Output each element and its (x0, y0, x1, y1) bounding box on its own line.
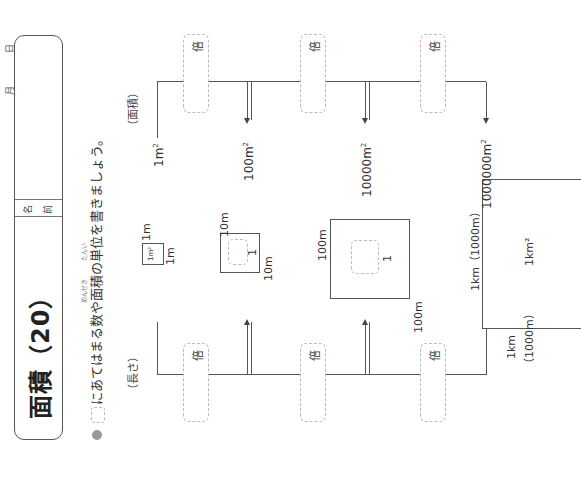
blank-box-icon (91, 407, 105, 423)
ruby-menseki: めんせき (79, 279, 88, 303)
square-100m: 1 (330, 219, 410, 299)
area-multiplier-blank-2[interactable]: 倍 (300, 34, 326, 113)
area-value-1: 1m2 (152, 143, 166, 167)
square-2-side-h: 10m (262, 256, 275, 281)
area-multiplier-blank-3[interactable]: 倍 (420, 34, 446, 113)
square-1-side-h: 1m (164, 247, 177, 265)
square-3-side-v: 100m (316, 229, 329, 261)
worksheet-page: 月 日 面積（20） 名 前 にあてはまる数や面積の単位を書きましょう。 めんせ… (0, 0, 581, 499)
square-10m: 1 (220, 233, 260, 273)
square-4-side-h: 1km (505, 335, 518, 359)
area-section-label: （面積） (124, 87, 140, 131)
square-3-side-h: 100m (412, 301, 425, 333)
square-4-side-h-note: （1000m） (520, 308, 536, 369)
square-1-side-v: 1m (140, 223, 153, 241)
area-value-4: 1000000m2 (480, 139, 494, 209)
square-2-answer-blank[interactable] (228, 239, 248, 265)
area-value-3: 10000m2 (360, 143, 374, 197)
name-label-2: 前 (41, 205, 54, 214)
length-multiplier-blank-2[interactable]: 倍 (300, 343, 326, 422)
square-2-side-v: 10m (218, 212, 231, 237)
name-label-cell: 名 前 (15, 199, 62, 217)
square-1km: 1km² (482, 179, 581, 329)
length-multiplier-blank-1[interactable]: 倍 (183, 343, 209, 422)
square-4-side-v: 1km（1000m） (466, 206, 482, 291)
title-box: 面積（20） 名 前 (14, 35, 63, 440)
square-3-answer-blank[interactable] (351, 240, 379, 274)
area-multiplier-blank-1[interactable]: 倍 (183, 34, 209, 113)
ruby-tani: たんい (79, 243, 88, 261)
length-multiplier-blank-3[interactable]: 倍 (420, 343, 446, 422)
page-title: 面積（20） (21, 284, 56, 419)
length-section-label: （長さ） (124, 351, 140, 395)
bullet-icon (92, 430, 102, 440)
name-field[interactable] (17, 40, 59, 198)
name-label-1: 名 (21, 205, 34, 214)
area-value-2: 100m2 (242, 142, 256, 181)
instruction-text: にあてはまる数や面積の単位を書きましょう。 (86, 133, 105, 423)
square-1m: 1m² (142, 243, 164, 265)
